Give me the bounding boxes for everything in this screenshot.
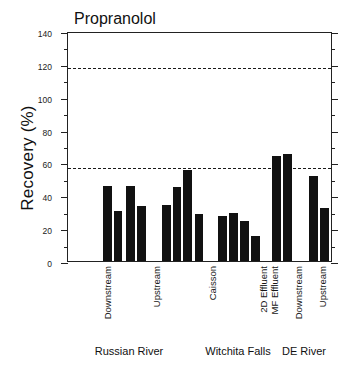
y-tick-label-20: 20	[43, 226, 52, 236]
y-tick-label-80: 80	[43, 128, 52, 138]
y-tick-major-right-0	[331, 263, 338, 264]
bar-wf-caisson-4	[251, 236, 260, 261]
y-tick-major-120: 120	[61, 66, 68, 67]
y-tick-label-120: 120	[38, 62, 52, 72]
bar-rr-downstream-1	[103, 186, 112, 261]
y-tick-label-0: 0	[47, 259, 52, 269]
bar-wf-2d-effluent	[272, 156, 281, 261]
lower-recovery-limit-line	[68, 168, 331, 169]
y-tick-major-right-100	[331, 99, 338, 100]
y-tick-label-40: 40	[43, 193, 52, 203]
bar-wf-caisson-3	[240, 221, 249, 261]
y-tick-major-right-60	[331, 164, 338, 165]
bar-rr-upstream-1	[162, 205, 171, 261]
x-group-label-1: Witchita Falls	[205, 345, 270, 357]
y-tick-minor-right-70	[331, 148, 335, 149]
y-tick-minor-right-50	[331, 181, 335, 182]
y-tick-minor-right-30	[331, 214, 335, 215]
x-category-label-2: Caisson	[208, 266, 218, 300]
bar-rr-downstream-2	[114, 211, 123, 261]
y-tick-minor-70	[64, 148, 68, 149]
y-tick-minor-130	[64, 49, 68, 50]
x-category-label-3: 2D Effluent	[259, 266, 269, 313]
y-tick-major-right-40	[331, 197, 338, 198]
y-tick-major-140: 140	[61, 33, 68, 34]
y-tick-major-right-20	[331, 230, 338, 231]
upper-recovery-limit-line	[68, 68, 331, 69]
x-group-label-2: DE River	[282, 345, 326, 357]
x-group-label-0: Russian River	[95, 345, 163, 357]
y-tick-minor-110	[64, 82, 68, 83]
y-tick-minor-right-130	[331, 49, 335, 50]
plot-inner: 020406080100120140	[68, 33, 331, 261]
y-tick-major-80: 80	[61, 132, 68, 133]
y-tick-minor-30	[64, 214, 68, 215]
x-category-label-4: MF Effluent	[270, 266, 280, 314]
y-tick-label-140: 140	[38, 29, 52, 39]
y-tick-minor-right-110	[331, 82, 335, 83]
bar-de-upstream	[320, 208, 329, 261]
y-tick-major-right-140	[331, 33, 338, 34]
x-category-label-0: Downstream	[103, 266, 113, 319]
x-category-label-5: Downstream	[294, 266, 304, 319]
y-tick-major-right-120	[331, 66, 338, 67]
bar-rr-downstream-3	[126, 186, 135, 261]
bar-wf-caisson-1	[218, 216, 227, 261]
bar-rr-upstream-2	[173, 187, 182, 261]
bar-de-downstream	[309, 176, 318, 261]
y-tick-minor-10	[64, 247, 68, 248]
y-tick-minor-right-90	[331, 115, 335, 116]
bar-rr-upstream-3	[183, 170, 192, 261]
y-tick-minor-90	[64, 115, 68, 116]
chart-title: Propranolol	[74, 10, 156, 28]
bar-wf-mf-effluent	[283, 154, 292, 261]
bar-rr-downstream-4	[137, 206, 146, 261]
y-tick-major-100: 100	[61, 99, 68, 100]
y-tick-label-60: 60	[43, 160, 52, 170]
x-category-label-1: Upstream	[152, 266, 162, 307]
y-tick-label-100: 100	[38, 95, 52, 105]
y-tick-minor-50	[64, 181, 68, 182]
y-tick-major-right-80	[331, 132, 338, 133]
bar-rr-upstream-4	[195, 214, 204, 261]
bar-wf-caisson-2	[229, 213, 238, 261]
y-tick-major-0: 0	[61, 263, 68, 264]
y-tick-major-20: 20	[61, 230, 68, 231]
y-tick-major-60: 60	[61, 164, 68, 165]
y-tick-major-40: 40	[61, 197, 68, 198]
chart-figure: Recovery (%) Propranolol 020406080100120…	[0, 0, 349, 373]
x-category-label-6: Upstream	[318, 266, 328, 307]
y-tick-minor-right-10	[331, 247, 335, 248]
y-axis-title: Recovery (%)	[18, 58, 38, 258]
plot-area: 020406080100120140	[67, 32, 332, 262]
